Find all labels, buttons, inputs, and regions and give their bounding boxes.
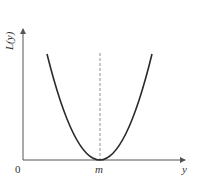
y-axis-label: L(y) — [3, 32, 15, 50]
origin-label: 0 — [15, 163, 21, 175]
loss-function-plot — [0, 0, 198, 188]
x-axis-label: y — [182, 163, 187, 175]
m-tick-label: m — [95, 163, 103, 175]
parabola-curve — [47, 54, 152, 160]
